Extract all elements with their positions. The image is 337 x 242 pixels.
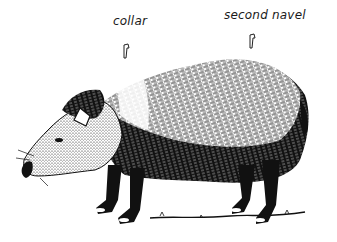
peccary-body xyxy=(16,59,309,224)
second-navel-pointer-icon xyxy=(250,34,255,48)
ground-line xyxy=(150,210,305,218)
collar-pointer-icon xyxy=(124,44,129,58)
peccary-illustration xyxy=(0,0,337,242)
